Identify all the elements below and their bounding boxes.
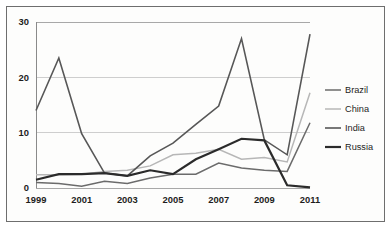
data-series-lines <box>36 34 310 187</box>
legend-label-china: China <box>345 104 370 114</box>
series-line-china <box>36 93 310 175</box>
y-tick-label-20: 20 <box>19 72 29 83</box>
y-tick-label-0: 0 <box>24 182 29 193</box>
x-tick-label-2011: 2011 <box>300 194 320 205</box>
y-axis-tick-labels: 0102030 <box>19 16 29 193</box>
legend-label-india: India <box>345 123 366 133</box>
legend-label-brazil: Brazil <box>345 85 368 95</box>
x-axis-tick-labels: 1999200120032005200720092011 <box>26 194 321 205</box>
x-tick-label-2003: 2003 <box>117 194 138 205</box>
chart-legend: BrazilChinaIndiaRussia <box>325 85 374 152</box>
y-tick-label-30: 30 <box>19 16 29 27</box>
x-tick-label-2001: 2001 <box>71 194 92 205</box>
legend-label-russia: Russia <box>345 142 374 152</box>
x-tick-label-2009: 2009 <box>254 194 275 205</box>
line-chart-plot: 0102030 1999200120032005200720092011 Bra… <box>0 0 391 232</box>
chart-figure: 0102030 1999200120032005200720092011 Bra… <box>0 0 391 232</box>
x-tick-label-1999: 1999 <box>26 194 47 205</box>
gridlines <box>36 22 310 188</box>
x-tick-label-2005: 2005 <box>163 194 184 205</box>
y-tick-label-10: 10 <box>19 127 29 138</box>
x-tick-label-2007: 2007 <box>208 194 229 205</box>
series-line-russia <box>36 139 310 188</box>
